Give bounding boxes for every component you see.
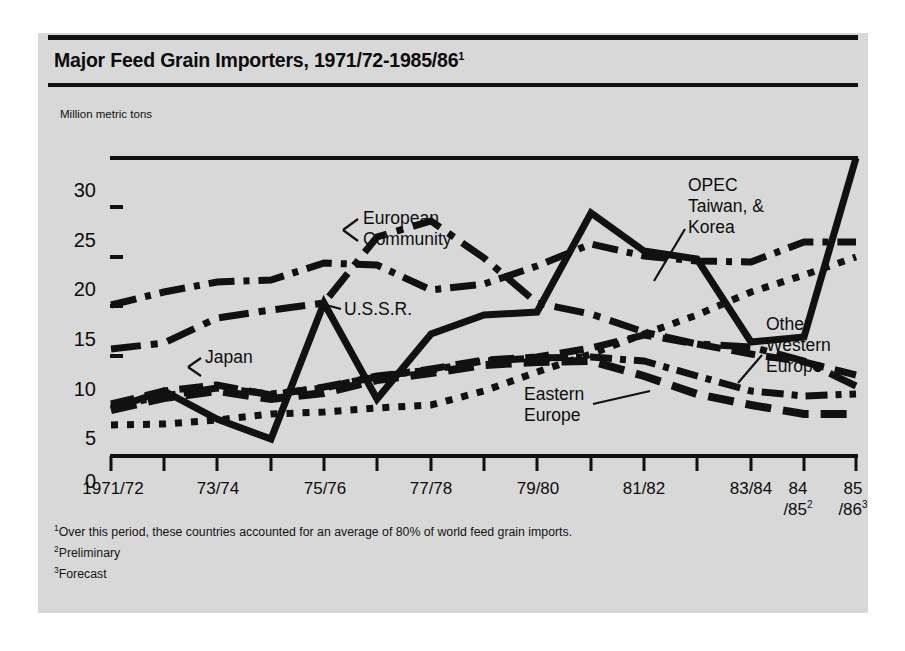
ytick-label-5: 5 <box>56 427 96 450</box>
series-label-european-community: European Community <box>363 208 452 250</box>
footnote-3: 3Forecast <box>54 565 107 581</box>
xtick-label-84-85-sub-text: /85 <box>783 500 807 519</box>
xtick-label-85-86-sub: /863 <box>828 499 878 520</box>
ytick-label-15: 15 <box>56 328 96 351</box>
series-label-owe-line1: Other <box>766 314 810 334</box>
xtick-label-85-86-sup: 3 <box>862 499 868 510</box>
x-axis-ticks <box>111 456 856 471</box>
series-label-ussr: U.S.S.R. <box>344 299 412 320</box>
xtick-label-75-76: 75/76 <box>283 479 367 499</box>
footnote-2-text: Preliminary <box>59 546 121 560</box>
series-label-european-community-line1: European <box>363 208 439 228</box>
series-line-japan <box>111 242 856 305</box>
series-label-opec-line2: Taiwan, & <box>688 196 764 216</box>
xtick-label-85-86-year: 85 <box>844 479 863 498</box>
xtick-label-84-85-sub: /852 <box>773 499 823 520</box>
ytick-label-10: 10 <box>56 378 96 401</box>
series-label-opec-line3: Korea <box>688 217 735 237</box>
series-label-ee-line2: Europe <box>524 405 580 425</box>
chart-figure: Major Feed Grain Importers, 1971/72-1985… <box>38 33 868 613</box>
series-label-owe-line2: Western <box>766 335 831 355</box>
xtick-label-84-85-year: 84 <box>789 479 808 498</box>
series-label-owe-line3: Europe <box>766 356 822 376</box>
series-label-opec-line1: OPEC <box>688 175 738 195</box>
footnote-3-text: Forecast <box>59 567 107 581</box>
series-label-european-community-line2: Community <box>363 229 452 249</box>
series-label-ee-line1: Eastern <box>524 384 584 404</box>
xtick-label-85-86: 85 /863 <box>828 479 878 520</box>
series-label-other-western-europe: Other Western Europe <box>766 314 831 377</box>
footnote-1: 1Over this period, these countries accou… <box>54 523 572 539</box>
xtick-label-73-74: 73/74 <box>176 479 260 499</box>
y-axis-ticks <box>110 207 123 356</box>
xtick-label-84-85: 84 /852 <box>773 479 823 520</box>
xtick-label-1971-72: 1971/72 <box>58 479 168 499</box>
series-label-opec-taiwan-korea: OPEC Taiwan, & Korea <box>688 175 764 238</box>
footnote-2: 2Preliminary <box>54 544 120 560</box>
xtick-label-81-82: 81/82 <box>602 479 686 499</box>
xtick-label-85-86-sub-text: /86 <box>838 500 862 519</box>
footnote-1-text: Over this period, these countries accoun… <box>59 525 572 539</box>
ytick-label-20: 20 <box>56 278 96 301</box>
xtick-label-79-80: 79/80 <box>496 479 580 499</box>
ytick-label-30: 30 <box>56 179 96 202</box>
series-label-japan: Japan <box>205 347 253 368</box>
xtick-label-84-85-sup: 2 <box>807 499 813 510</box>
ytick-label-25: 25 <box>56 229 96 252</box>
series-label-eastern-europe: Eastern Europe <box>524 384 584 426</box>
annotation-leader-lines <box>188 219 762 404</box>
xtick-label-77-78: 77/78 <box>389 479 473 499</box>
